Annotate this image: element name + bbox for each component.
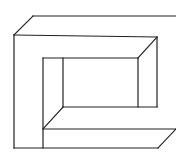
edge-inner-bottom-diagonal (43, 107, 63, 129)
edge-outer-top-left-diagonal (14, 16, 33, 35)
impossible-frame-figure (0, 0, 176, 152)
edge-outer-front-top (14, 35, 157, 37)
edge-slab-right-diagonal (158, 129, 176, 148)
edge-right-top-diagonal (138, 37, 157, 58)
